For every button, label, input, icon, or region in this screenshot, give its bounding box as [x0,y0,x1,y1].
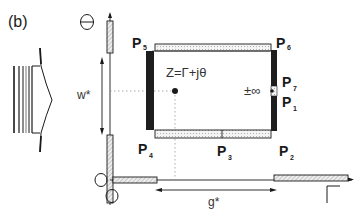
svg-text:P: P [276,35,285,51]
width-label: w* [76,88,91,102]
svg-text:4: 4 [149,152,153,159]
equation-label: Z=Γ+jθ [166,65,206,80]
svg-text:2: 2 [290,154,294,161]
panel-label: (b) [8,13,28,30]
svg-text:P: P [279,143,288,159]
point-label-p7: P 7 [282,74,297,92]
origin-point [172,88,178,94]
theta-axis-label [81,15,94,30]
svg-text:P: P [138,141,147,157]
svg-text:P: P [282,94,291,110]
gap-label: g* [208,195,220,209]
point-label-p5: P 5 [132,35,147,51]
gap-dimension-arrow [155,188,277,192]
conformal-map-diagram: (b) [0,0,364,218]
point-label-p6: P 6 [276,35,291,51]
point-label-p2: P 2 [279,143,294,161]
svg-text:P: P [282,74,291,90]
electrode-stack-figure [14,48,52,152]
svg-text:6: 6 [287,44,291,51]
svg-text:1: 1 [293,105,297,112]
svg-text:7: 7 [293,85,297,92]
point-label-p1: P 1 [282,94,297,112]
infinity-label: ±∞ [244,83,260,98]
svg-text:P: P [217,143,226,159]
theta-axis [107,12,113,205]
point-label-p3: P 3 [217,143,232,161]
infinity-point [270,89,274,93]
gamma-axis [110,175,354,183]
width-dimension-arrow [100,57,104,135]
point-label-p4: P 4 [138,141,153,159]
svg-text:P: P [132,35,141,51]
origin-symbol [95,174,107,187]
svg-text:5: 5 [143,44,147,51]
gamma-axis-label [327,186,340,203]
svg-text:3: 3 [228,154,232,161]
